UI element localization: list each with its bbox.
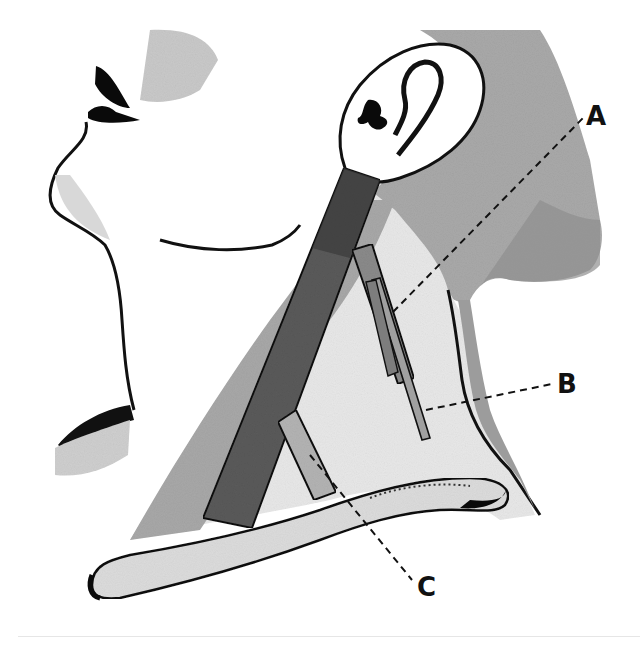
label-c: C <box>417 574 436 600</box>
anatomy-illustration <box>0 0 643 653</box>
left-shoulder <box>55 405 134 476</box>
nostril-shape <box>95 66 130 108</box>
label-a: A <box>586 103 606 129</box>
bottom-rule <box>18 636 640 637</box>
neck-anatomy-figure: A B C <box>0 0 643 653</box>
lip-shape <box>88 106 140 123</box>
label-b: B <box>557 371 577 397</box>
